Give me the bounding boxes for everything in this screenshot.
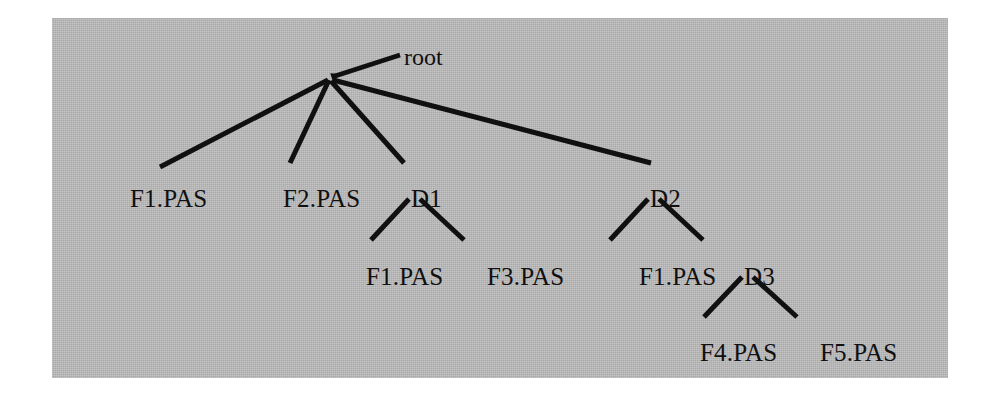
tree-node-f4-under-d3: F4.PAS — [700, 340, 777, 365]
tree-node-f1-under-d2: F1.PAS — [639, 264, 716, 289]
tree-edge — [610, 199, 648, 240]
tree-edge — [290, 80, 329, 163]
tree-node-f1-level1: F1.PAS — [130, 186, 207, 211]
tree-node-f5-under-d3: F5.PAS — [820, 340, 897, 365]
root-pointer-arrow — [332, 55, 400, 77]
root-pointer-label: root — [404, 45, 443, 69]
tree-node-f3-under-d1: F3.PAS — [487, 264, 564, 289]
tree-node-f2-level1: F2.PAS — [283, 186, 360, 211]
tree-edge — [333, 80, 651, 163]
tree-node-f1-under-d1: F1.PAS — [366, 264, 443, 289]
tree-node-d1: D1 — [411, 186, 442, 211]
tree-node-d2: D2 — [650, 186, 681, 211]
tree-node-d3: D3 — [744, 264, 775, 289]
tree-edge — [160, 80, 328, 167]
tree-edge — [371, 199, 409, 240]
root-pointer-group — [332, 55, 400, 77]
figure-root: F1.PASF2.PASD1D2F1.PASF3.PASF1.PASD3F4.P… — [0, 0, 993, 402]
